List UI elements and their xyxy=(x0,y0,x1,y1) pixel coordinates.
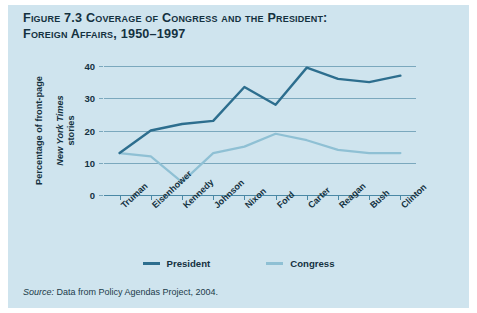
y-axis-title-part-3: stories xyxy=(66,76,77,185)
y-tick-20 xyxy=(99,131,103,132)
y-tick-label-40: 40 xyxy=(84,61,95,72)
y-axis-title: Percentage of front-page New York Times … xyxy=(46,66,64,195)
y-tick-30 xyxy=(99,98,103,99)
gridline-20 xyxy=(104,131,416,132)
gridline-40 xyxy=(104,66,416,67)
figure-title-line-2: Foreign Affairs, 1950–1997 xyxy=(23,26,443,42)
plot-area: 010203040 xyxy=(104,66,416,195)
legend-item-congress[interactable]: Congress xyxy=(266,258,334,269)
y-tick-label-0: 0 xyxy=(90,190,95,201)
legend-swatch-president xyxy=(143,262,160,265)
y-axis-title-part-1: Percentage of front-page xyxy=(34,76,45,185)
figure-title-line-1: Figure 7.3 Coverage of Congress and the … xyxy=(23,10,443,26)
y-tick-label-20: 20 xyxy=(84,125,95,136)
x-tick-eisenhower xyxy=(151,196,152,200)
y-tick-10 xyxy=(99,163,103,164)
chart-legend: PresidentCongress xyxy=(0,258,477,269)
x-tick-carter xyxy=(307,196,308,200)
source-note: Source: Data from Policy Agendas Project… xyxy=(23,287,218,297)
legend-swatch-congress xyxy=(266,262,283,265)
source-text: Data from Policy Agendas Project, 2004. xyxy=(54,287,218,297)
y-tick-0 xyxy=(99,195,103,196)
x-tick-truman xyxy=(120,196,121,200)
source-prefix: Source: xyxy=(23,287,54,297)
gridline-30 xyxy=(104,98,416,99)
y-tick-label-30: 30 xyxy=(84,93,95,104)
x-tick-ford xyxy=(276,196,277,200)
figure-title: Figure 7.3 Coverage of Congress and the … xyxy=(23,10,443,42)
figure-container: Figure 7.3 Coverage of Congress and the … xyxy=(0,0,477,313)
legend-label-congress: Congress xyxy=(290,258,334,269)
y-tick-40 xyxy=(99,66,103,67)
y-tick-label-10: 10 xyxy=(84,157,95,168)
gridline-10 xyxy=(104,163,416,164)
y-axis-title-part-2: New York Times xyxy=(55,76,66,185)
legend-item-president[interactable]: President xyxy=(143,258,211,269)
legend-label-president: President xyxy=(167,258,211,269)
